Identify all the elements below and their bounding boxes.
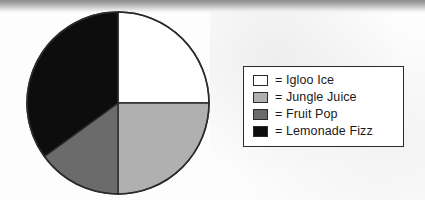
legend-label-fruit-pop: = Fruit Pop	[275, 108, 338, 121]
legend-swatch-jungle-juice	[253, 92, 268, 103]
legend-item-lemonade-fizz: = Lemonade Fizz	[253, 123, 403, 140]
pie-slice-jungle-juice	[118, 103, 209, 194]
legend-swatch-fruit-pop	[253, 109, 268, 120]
pie-slice-group	[27, 12, 209, 194]
legend-item-fruit-pop: = Fruit Pop	[253, 106, 403, 123]
legend-label-igloo-ice: = Igloo Ice	[275, 74, 334, 87]
pie-chart	[26, 11, 210, 195]
scanned-page: = Igloo Ice = Jungle Juice = Fruit Pop =…	[0, 0, 425, 200]
legend-swatch-lemonade-fizz	[253, 126, 268, 137]
legend-label-jungle-juice: = Jungle Juice	[275, 91, 357, 104]
pie-chart-svg	[26, 11, 210, 195]
legend-item-igloo-ice: = Igloo Ice	[253, 72, 403, 89]
chart-legend: = Igloo Ice = Jungle Juice = Fruit Pop =…	[243, 66, 404, 147]
legend-swatch-igloo-ice	[253, 75, 268, 86]
pie-slice-igloo-ice	[118, 12, 209, 103]
legend-label-lemonade-fizz: = Lemonade Fizz	[275, 125, 373, 138]
legend-item-jungle-juice: = Jungle Juice	[253, 89, 403, 106]
